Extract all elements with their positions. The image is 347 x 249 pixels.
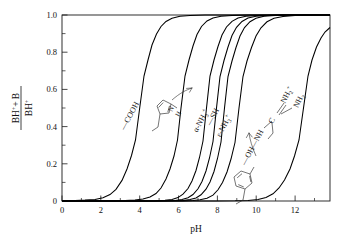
y-den-sup: +	[24, 100, 30, 103]
y-tick-label: 0	[53, 196, 57, 206]
curve-sulfhydryl	[62, 15, 330, 201]
x-tick-labels: 0 2 4 6 8 10 12	[60, 205, 299, 215]
x-tick-label: 12	[291, 205, 300, 215]
guanidinium-nh-text: —NH	[248, 128, 266, 151]
y-num-rest: + B	[11, 93, 21, 107]
curve-set	[62, 15, 330, 201]
curve-imidazole	[62, 15, 330, 201]
y-axis-denominator: BH+	[24, 100, 34, 116]
label-guanidinium-nh: —NH	[248, 128, 266, 151]
curve-guanidinium	[62, 28, 330, 202]
curve-phenol	[62, 15, 330, 201]
y-num-base: BH	[11, 110, 21, 123]
x-tick-label: 4	[138, 205, 143, 215]
curve-carboxyl	[62, 15, 330, 201]
y-den-base: BH	[24, 103, 34, 116]
x-axis-title: pH	[190, 224, 202, 234]
y-tick-labels: 0 0.2 0.4 0.6 0.8 1.0	[46, 10, 57, 206]
y-axis-ticks	[62, 15, 68, 201]
x-axis-title-text: pH	[190, 224, 202, 234]
guanidinium-nh-base: NH	[252, 128, 265, 143]
y-tick-label: 0.4	[46, 122, 57, 132]
curve-epsilon-amino	[62, 15, 330, 201]
x-tick-label: 8	[215, 205, 219, 215]
imidazole-structure	[152, 100, 177, 131]
x-tick-label: 0	[60, 205, 64, 215]
x-tick-label: 2	[99, 205, 103, 215]
y-tick-label: 1.0	[46, 10, 57, 20]
y-tick-label: 0.2	[46, 159, 57, 169]
plot-frame	[62, 15, 330, 201]
curve-alpha-amino	[62, 15, 330, 201]
guanidinium-imino-sup: +	[285, 85, 292, 91]
x-tick-label: 6	[176, 205, 180, 215]
y-tick-label: 0.8	[46, 47, 57, 57]
y-tick-label: 0.6	[46, 84, 57, 94]
x-tick-label: 10	[252, 205, 261, 215]
chart-canvas: 0 2 4 6 8 10 12 pH	[0, 0, 347, 249]
titration-curve-figure: 0 2 4 6 8 10 12 pH	[0, 0, 347, 249]
y-axis-title: BH++ B BH+	[11, 86, 34, 130]
y-axis-numerator: BH++ B	[11, 93, 21, 123]
curve-labels: —COOH α-NH3+ —SH ε-NH3+ —OH —NH	[118, 85, 307, 168]
